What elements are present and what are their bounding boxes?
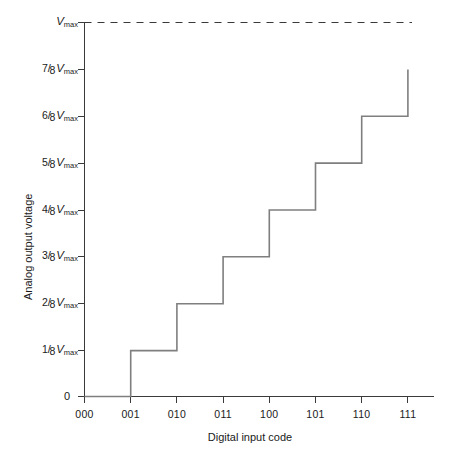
x-tick-label-010: 010	[168, 408, 186, 420]
x-tick-label-101: 101	[306, 408, 324, 420]
x-tick-label-000: 000	[75, 408, 93, 420]
dac-transfer-characteristic-chart: Vmax 7/8Vmax 6/8Vmax 5/8Vmax 4/8Vmax 3/8…	[0, 0, 457, 461]
y-axis-title: Analog output voltage	[22, 194, 34, 300]
x-tick-label-001: 001	[121, 408, 139, 420]
x-tick-label-100: 100	[260, 408, 278, 420]
x-tick-label-011: 011	[214, 408, 232, 420]
x-tick-label-111: 111	[399, 408, 416, 420]
x-axis-title: Digital input code	[208, 431, 292, 443]
x-tick-label-110: 110	[353, 408, 371, 420]
x-axis-tick-labels: 000 001 010 011 100 101 110 111	[0, 0, 457, 461]
